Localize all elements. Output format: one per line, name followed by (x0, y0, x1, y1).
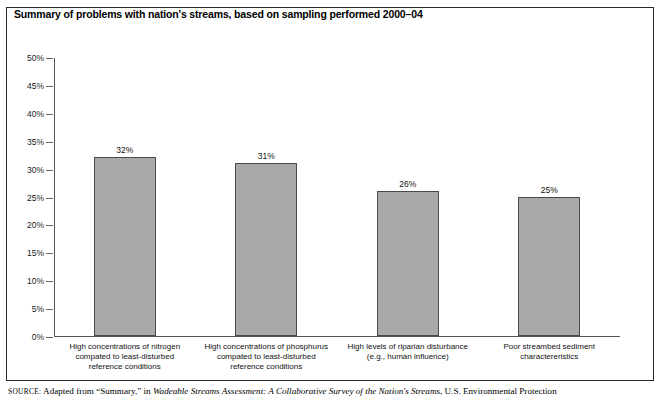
y-axis-tick-label: 30% (27, 165, 44, 175)
source-text-b: , U.S. Environmental Protection (440, 386, 557, 396)
x-axis-line (54, 336, 620, 337)
y-axis-line (54, 58, 55, 337)
chart-title: Summary of problems with nation's stream… (14, 8, 423, 20)
x-axis-category-label: High levels of riparian disturbance(e.g.… (337, 342, 479, 362)
plot-area: 32%31%26%25% (54, 58, 620, 337)
y-axis-tick-mark (46, 309, 53, 310)
y-axis-tick-mark (46, 86, 53, 87)
category-label-line: High concentrations of nitrogen (54, 342, 196, 352)
y-axis-tick-label: 35% (27, 137, 44, 147)
x-axis-category-label: Poor streambed sedimentcharactereristics (479, 342, 621, 362)
bar (94, 157, 156, 336)
y-axis-tick-label: 45% (27, 81, 44, 91)
category-label-line: charactereristics (479, 352, 621, 362)
y-axis-tick-mark (46, 58, 53, 59)
y-axis-tick-label: 5% (32, 304, 44, 314)
category-label-line: compated to least-disturbed (196, 352, 338, 362)
y-axis-tick-label: 40% (27, 109, 44, 119)
y-axis-tick-labels: 0%5%10%15%20%25%30%35%40%45%50% (0, 58, 44, 337)
bar-value-label: 25% (519, 185, 579, 195)
x-axis-category-labels: High concentrations of nitrogencompated … (54, 342, 620, 380)
y-axis-tick-mark (46, 142, 53, 143)
source-label: SOURCE: (8, 387, 41, 396)
y-axis-tick-mark (46, 198, 53, 199)
category-label-line: reference conditions (196, 362, 338, 372)
bar-value-label: 32% (95, 145, 155, 155)
bar (518, 197, 580, 337)
y-axis-tick-label: 25% (27, 193, 44, 203)
category-label-line: High levels of riparian disturbance (337, 342, 479, 352)
y-axis-tick-mark (46, 225, 53, 226)
y-axis-tick-label: 10% (27, 276, 44, 286)
x-axis-category-label: High concentrations of nitrogencompated … (54, 342, 196, 373)
y-axis-tick-label: 0% (32, 332, 44, 342)
source-text-a: Adapted from “Summary,” in (43, 386, 153, 396)
y-axis-tick-mark (46, 170, 53, 171)
bar-value-label: 31% (236, 151, 296, 161)
category-label-line: High concentrations of phosphurus (196, 342, 338, 352)
category-label-line: reference conditions (54, 362, 196, 372)
y-axis-tick-mark (46, 281, 53, 282)
source-title-italic: Wadeable Streams Assessment: A Collabora… (153, 386, 440, 396)
y-axis-tick-mark (46, 337, 53, 338)
bar (235, 163, 297, 336)
category-label-line: (e.g., human influence) (337, 352, 479, 362)
source-note: SOURCE: Adapted from “Summary,” in Wadea… (8, 386, 661, 398)
category-label-line: compated to least-disturbed (54, 352, 196, 362)
x-axis-category-label: High concentrations of phosphuruscompate… (196, 342, 338, 373)
category-label-line: Poor streambed sediment (479, 342, 621, 352)
y-axis-tick-mark (46, 114, 53, 115)
y-axis-tick-label: 15% (27, 248, 44, 258)
bar-value-label: 26% (378, 179, 438, 189)
y-axis-tick-mark (46, 253, 53, 254)
bar (377, 191, 439, 336)
y-axis-tick-label: 20% (27, 220, 44, 230)
y-axis-tick-label: 50% (27, 53, 44, 63)
